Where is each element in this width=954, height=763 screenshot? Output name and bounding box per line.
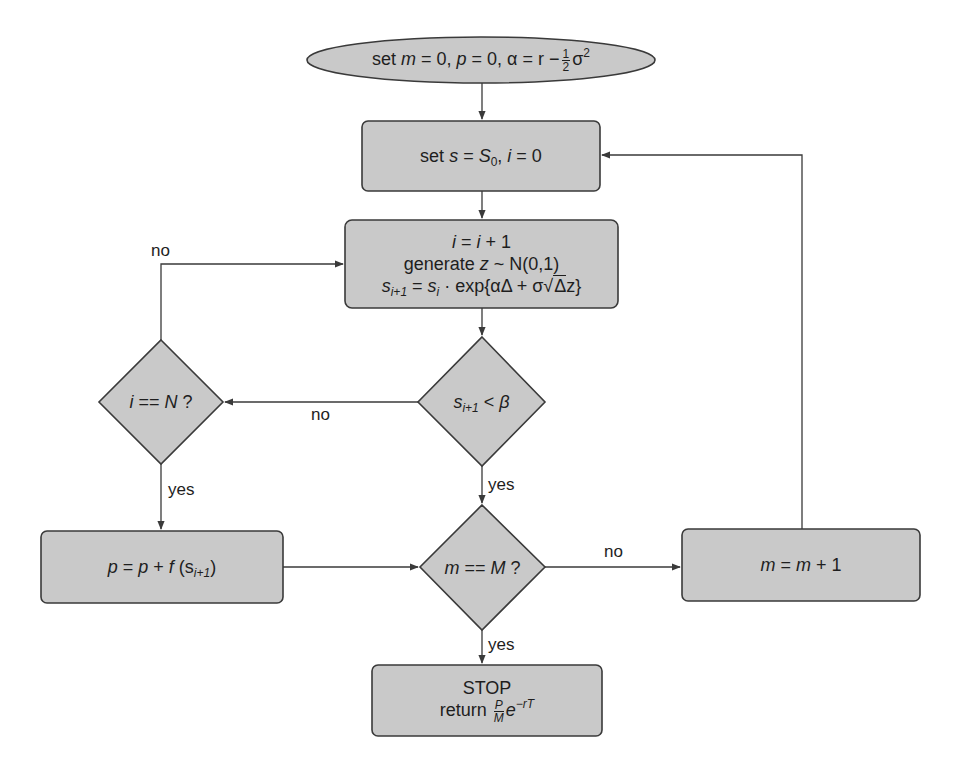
step-generate: generate [404,254,480,274]
sim-m: m [444,558,459,578]
label-barrier-yes: yes [488,475,514,495]
sim-check-text: m == M ? [444,557,520,579]
payoff-text: p = p + f (si+1) [108,556,216,578]
barrier-op: < [479,392,500,412]
sim-M: M [491,558,506,578]
maturity-check-node: i == N ? [99,340,223,464]
reset-node: set s = S0, i = 0 [362,121,600,191]
increment-node: m = m + 1 [682,529,920,601]
payoff-sub: i+1 [194,566,210,580]
payoff-p2: p [138,557,148,577]
step-s-sub-next: i+1 [391,285,407,299]
barrier-check-text: si+1 < β [453,391,509,413]
step-exp-mid: · exp{αΔ + σ [439,276,543,296]
step-z: z [480,254,489,274]
stop-return: return [440,700,492,720]
step-s2: s [428,276,437,296]
step-plus: + 1 [480,232,511,252]
reset-eq-zero: = 0 [511,146,542,166]
barrier-check-node: si+1 < β [418,337,545,466]
edge-maturity-no-loop [161,264,343,340]
step-exp-end: z} [566,276,581,296]
reset-prefix: set [420,146,449,166]
maturity-check-text: i == N ? [129,391,192,413]
maturity-op: == [133,392,164,412]
stop-node: STOP return PMe−rT [372,665,602,736]
init-p-var: p [457,49,467,69]
step-s: s [382,276,391,296]
init-eq1: = 0, [416,49,457,69]
label-sim-no: no [604,542,623,562]
init-half-fraction: 12 [562,48,571,73]
maturity-q: ? [178,392,193,412]
init-sigma-exp: 2 [583,46,590,60]
init-prefix: set [372,49,401,69]
reset-comma: , [497,146,507,166]
barrier-s-sub: i+1 [462,401,478,415]
reset-s-var: s [449,146,458,166]
init-m-var: m [401,49,416,69]
sqrt-icon: √ [543,276,553,296]
stop-line-2: return PMe−rT [440,699,534,724]
payoff-plus: + [148,557,169,577]
stop-fraction: PM [494,699,504,724]
reset-node-text: set s = S0, i = 0 [420,145,542,167]
step-line-2: generate z ~ N(0,1) [404,253,560,275]
step-node: i = i + 1 generate z ~ N(0,1) si+1 = si … [345,220,618,308]
step-eq: = [456,232,477,252]
stop-line-1: STOP [463,677,512,699]
init-node: set m = 0, p = 0, α = r −12σ2 [307,38,655,83]
label-loop-no: no [151,241,170,261]
sim-q: ? [506,558,521,578]
step-line-3: si+1 = si · exp{αΔ + σ√Δz} [382,275,582,297]
init-sigma: σ [572,49,583,69]
barrier-beta: β [499,392,509,412]
maturity-N: N [165,392,178,412]
stop-frac-den: M [494,712,504,724]
reset-S-var: S [479,146,491,166]
step-line-1: i = i + 1 [452,231,511,253]
label-maturity-yes: yes [168,480,194,500]
increment-eq: = [775,555,796,575]
init-alpha-expr: α = r − [507,49,559,69]
label-sim-yes: yes [488,635,514,655]
label-barrier-no: no [311,405,330,425]
reset-eq: = [458,146,479,166]
step-s-eq: = [407,276,428,296]
stop-exp: −rT [516,697,534,711]
payoff-open: (s [174,557,194,577]
frac-denominator: 2 [563,61,570,73]
payoff-close: ) [210,557,216,577]
payoff-eq: = [118,557,139,577]
payoff-node: p = p + f (si+1) [41,531,283,603]
stop-e: e [506,700,516,720]
sim-op: == [459,558,490,578]
increment-text: m = m + 1 [760,554,841,576]
increment-m: m [760,555,775,575]
increment-plus: + 1 [811,555,842,575]
init-node-text: set m = 0, p = 0, α = r −12σ2 [372,48,590,73]
increment-m2: m [796,555,811,575]
init-eq2: = 0, [467,49,508,69]
step-sqrt-arg: Δ [553,275,566,296]
sim-check-node: m == M ? [420,505,545,630]
edge-increment-loop [602,155,802,529]
payoff-p: p [108,557,118,577]
step-dist: ~ N(0,1) [489,254,560,274]
